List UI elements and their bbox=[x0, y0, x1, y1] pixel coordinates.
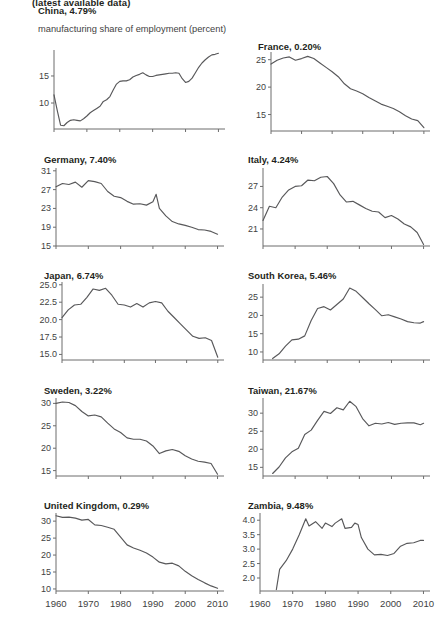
panel-title: United Kingdom, 0.29% bbox=[44, 500, 149, 511]
panel-title: China, 4.79% bbox=[38, 5, 96, 16]
series-line bbox=[263, 177, 424, 245]
y-tick-label: 30 bbox=[14, 516, 51, 526]
series-line bbox=[54, 53, 218, 126]
panel-title: Taiwan, 21.67% bbox=[248, 385, 317, 396]
y-tick-label: 3.0 bbox=[218, 544, 255, 554]
y-tick-label: 25 bbox=[221, 426, 258, 436]
series-line bbox=[271, 56, 424, 127]
y-tick-label: 15 bbox=[221, 329, 258, 339]
panel-title: Sweden, 3.22% bbox=[44, 385, 112, 396]
y-tick-label: 4.0 bbox=[218, 515, 255, 525]
y-tick-label: 19 bbox=[14, 222, 51, 232]
x-tick-label: 1990 bbox=[347, 598, 368, 609]
y-tick-label: 23 bbox=[14, 203, 51, 213]
y-tick-label: 17.5 bbox=[20, 332, 57, 342]
series-line bbox=[56, 181, 218, 235]
x-tick-label: 1980 bbox=[110, 598, 131, 609]
y-tick-label: 15 bbox=[221, 462, 258, 472]
y-tick-label: 25.0 bbox=[20, 280, 57, 290]
y-tick-label: 3.5 bbox=[218, 530, 255, 540]
y-tick-label: 25 bbox=[14, 421, 51, 431]
x-tick-label: 2010 bbox=[413, 598, 434, 609]
y-tick-label: 30 bbox=[14, 398, 51, 408]
x-tick-label: 1980 bbox=[315, 598, 336, 609]
y-tick-label: 20 bbox=[14, 550, 51, 560]
x-tick-label: 1970 bbox=[282, 598, 303, 609]
x-tick-label: 2010 bbox=[207, 598, 228, 609]
x-tick-label: 2000 bbox=[380, 598, 401, 609]
series-line bbox=[56, 402, 218, 474]
panel-title: Zambia, 9.48% bbox=[248, 500, 313, 511]
y-tick-label: 24 bbox=[221, 203, 258, 213]
y-tick-label: 20 bbox=[229, 82, 266, 92]
y-tick-label: 20 bbox=[14, 443, 51, 453]
y-tick-label: 10 bbox=[14, 584, 51, 594]
y-tick-label: 15 bbox=[229, 110, 266, 120]
y-tick-label: 25 bbox=[229, 55, 266, 65]
y-tick-label: 20 bbox=[221, 444, 258, 454]
series-line bbox=[62, 288, 218, 357]
y-tick-label: 15 bbox=[14, 466, 51, 476]
series-line bbox=[276, 519, 423, 590]
series-line bbox=[56, 516, 218, 589]
series-line bbox=[273, 401, 424, 473]
y-tick-label: 22.5 bbox=[20, 297, 57, 307]
y-tick-label: 25 bbox=[14, 533, 51, 543]
small-multiples-grid: China, 4.79%1015France, 0.20%152025Germa… bbox=[0, 0, 442, 629]
y-tick-label: 20.0 bbox=[20, 315, 57, 325]
x-tick-label: 1970 bbox=[78, 598, 99, 609]
y-tick-label: 15 bbox=[12, 71, 49, 81]
y-tick-label: 20 bbox=[221, 310, 258, 320]
y-tick-label: 15.0 bbox=[20, 349, 57, 359]
panel-title: France, 0.20% bbox=[258, 41, 321, 52]
y-tick-label: 2.0 bbox=[218, 573, 255, 583]
x-tick-label: 1990 bbox=[142, 598, 163, 609]
y-tick-label: 2.5 bbox=[218, 559, 255, 569]
panel-title: Italy, 4.24% bbox=[248, 154, 298, 165]
y-tick-label: 15 bbox=[14, 567, 51, 577]
x-tick-label: 1960 bbox=[45, 598, 66, 609]
x-tick-label: 1960 bbox=[249, 598, 270, 609]
y-tick-label: 30 bbox=[221, 408, 258, 418]
y-tick-label: 21 bbox=[221, 224, 258, 234]
panel-title: Germany, 7.40% bbox=[44, 154, 116, 165]
y-tick-label: 10 bbox=[12, 98, 49, 108]
y-tick-label: 27 bbox=[14, 185, 51, 195]
y-tick-label: 27 bbox=[221, 181, 258, 191]
panel-title: South Korea, 5.46% bbox=[248, 270, 336, 281]
y-tick-label: 31 bbox=[14, 166, 51, 176]
y-tick-label: 25 bbox=[221, 292, 258, 302]
x-tick-label: 2000 bbox=[175, 598, 196, 609]
series-line bbox=[273, 288, 424, 359]
y-tick-label: 10 bbox=[221, 347, 258, 357]
y-tick-label: 15 bbox=[14, 241, 51, 251]
